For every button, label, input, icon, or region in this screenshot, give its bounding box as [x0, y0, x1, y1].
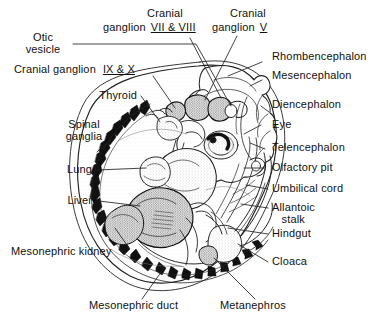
label-allantoic-stalk: Allantoic stalk	[272, 202, 315, 225]
label-liver: Liver	[34, 195, 92, 207]
label-cranial-ganglion-9-10: Cranial ganglionIX & X	[14, 64, 135, 76]
cg5-word: ganglion	[212, 21, 255, 33]
metanephros	[199, 246, 218, 265]
label-spinal-ganglia: Spinal ganglia	[56, 119, 112, 142]
label-telencephalon: Telencephalon	[272, 142, 345, 154]
label-otic-vesicle: Otic vesicle	[12, 32, 74, 55]
eye	[204, 131, 238, 159]
label-cranial-ganglion-7-8-line2: ganglionVII & VIII	[103, 22, 196, 34]
label-cloaca: Cloaca	[272, 256, 307, 268]
thyroid	[157, 116, 182, 140]
label-mesonephric-kidney: Mesonephric kidney	[11, 246, 112, 258]
label-thyroid: Thyroid	[55, 90, 137, 102]
lung	[140, 157, 170, 187]
label-mesencephalon: Mesencephalon	[272, 70, 352, 82]
label-cranial-ganglion-5-line2: ganglionV	[212, 22, 267, 34]
cg78-word: ganglion	[103, 21, 146, 33]
label-cranial-ganglion-5-line1: Cranial	[208, 8, 288, 20]
cg910-roman: IX & X	[103, 63, 135, 75]
label-rhombencephalon: Rhombencephalon	[272, 51, 367, 63]
cg910-word: Cranial ganglion	[14, 63, 96, 75]
cg5-roman: V	[260, 21, 268, 33]
cg78-roman: VII & VIII	[151, 21, 196, 33]
label-umbilical-cord: Umbilical cord	[272, 183, 343, 195]
label-hindgut: Hindgut	[272, 228, 311, 240]
label-eye: Eye	[272, 119, 291, 131]
label-diencephalon: Diencephalon	[272, 99, 341, 111]
label-lung: Lung	[32, 164, 92, 176]
leader-cloaca	[238, 244, 268, 262]
label-metanephros: Metanephros	[220, 300, 286, 312]
label-mesonephric-duct: Mesonephric duct	[89, 300, 178, 312]
label-olfactory-pit: Olfactory pit	[272, 162, 333, 174]
